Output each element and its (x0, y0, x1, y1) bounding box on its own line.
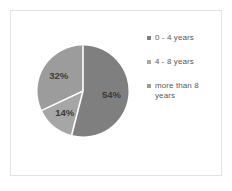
pie-chart-svg: 54% 14% 32% (37, 45, 129, 137)
square-marker-icon (147, 60, 151, 64)
pie-data-label-0: 54% (102, 89, 122, 100)
legend-item-0[interactable]: 0 - 4 years (147, 33, 219, 43)
page-root: 54% 14% 32% 0 - 4 years 4 - 8 years more… (0, 0, 232, 191)
chart-card: 54% 14% 32% 0 - 4 years 4 - 8 years more… (10, 10, 222, 176)
legend-item-2[interactable]: more than 8 years (147, 81, 219, 101)
legend-item-label: 4 - 8 years (155, 57, 194, 67)
pie-chart: 54% 14% 32% (37, 45, 129, 137)
square-marker-icon (147, 36, 151, 40)
pie-data-label-1: 14% (55, 107, 75, 118)
pie-data-label-2: 32% (49, 70, 69, 81)
legend-item-1[interactable]: 4 - 8 years (147, 57, 219, 67)
chart-legend: 0 - 4 years 4 - 8 years more than 8 year… (147, 33, 219, 101)
legend-item-label: 0 - 4 years (155, 33, 194, 43)
legend-item-label: more than 8 years (155, 81, 219, 101)
square-marker-icon (147, 84, 151, 88)
